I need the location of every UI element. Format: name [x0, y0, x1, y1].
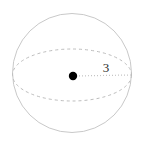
radius-length-label: 3 — [103, 60, 110, 75]
diagram-background — [0, 0, 143, 141]
sphere-diagram: 3 — [0, 0, 143, 141]
sphere-diagram-canvas: 3 — [0, 0, 143, 141]
sphere-center-dot — [69, 72, 77, 80]
